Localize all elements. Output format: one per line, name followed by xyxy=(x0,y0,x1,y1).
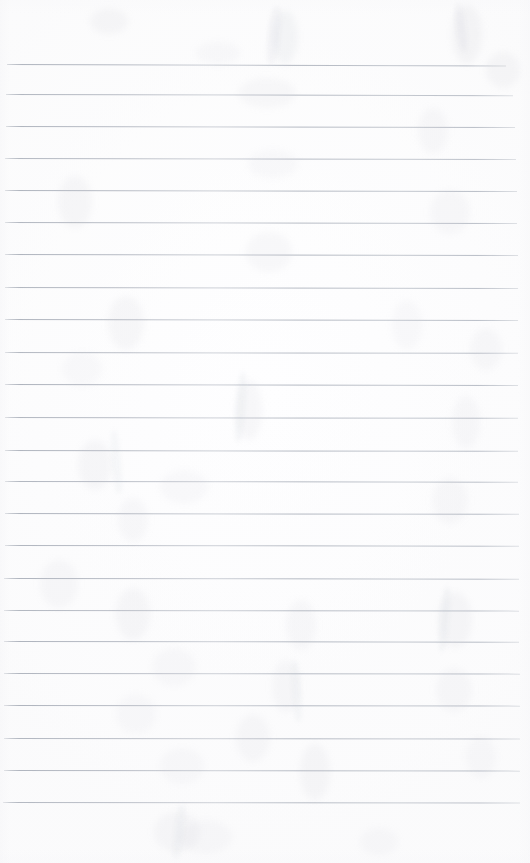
scan-smudge xyxy=(452,396,480,448)
scan-smudge xyxy=(58,176,92,228)
rule-line xyxy=(7,64,506,66)
scan-smudge xyxy=(452,4,482,64)
scan-streak xyxy=(171,804,188,861)
scan-smudge xyxy=(180,820,232,854)
scan-smudge xyxy=(486,52,520,88)
scan-smudge xyxy=(196,42,240,64)
rule-line xyxy=(3,802,520,804)
rule-line xyxy=(5,222,517,224)
scan-streak xyxy=(453,2,470,53)
rule-line xyxy=(5,190,517,192)
rule-line xyxy=(5,352,518,354)
scan-smudge xyxy=(272,10,298,64)
rule-line xyxy=(5,158,516,160)
scan-smudge xyxy=(40,560,78,608)
rule-line xyxy=(4,738,520,740)
scan-artifacts-layer xyxy=(0,0,530,863)
scan-smudge xyxy=(246,232,292,272)
scan-smudge xyxy=(286,600,316,650)
scan-smudge xyxy=(432,478,468,524)
rule-line xyxy=(5,481,518,483)
scan-smudge xyxy=(152,648,196,686)
scan-smudge xyxy=(116,694,156,734)
rule-line xyxy=(4,673,520,675)
scan-smudge xyxy=(108,296,144,350)
rule-line xyxy=(5,319,518,321)
scan-smudge xyxy=(118,498,148,542)
scan-smudge xyxy=(466,736,496,778)
rule-line xyxy=(5,417,518,419)
scan-smudge xyxy=(236,380,262,440)
scan-smudge xyxy=(392,300,422,350)
rule-line xyxy=(4,770,520,772)
scan-smudge xyxy=(78,440,112,490)
rule-line xyxy=(4,705,520,707)
scan-smudge xyxy=(160,748,204,784)
rule-line xyxy=(5,287,518,289)
scan-smudge xyxy=(236,714,270,762)
scan-smudge xyxy=(430,190,470,234)
scan-smudge xyxy=(62,352,102,386)
scan-smudge xyxy=(418,108,448,154)
scan-edge-vignette xyxy=(0,0,530,863)
paper-texture xyxy=(0,0,530,863)
scan-smudge xyxy=(470,328,502,370)
scan-smudge xyxy=(90,8,128,34)
rule-line xyxy=(5,254,518,256)
rule-line xyxy=(5,450,518,452)
scan-smudge xyxy=(116,588,150,640)
scan-streak xyxy=(290,660,303,722)
scan-smudge xyxy=(238,78,296,108)
scan-smudge xyxy=(438,592,472,648)
rule-line xyxy=(4,641,519,643)
scan-streak xyxy=(265,6,283,65)
scan-smudge xyxy=(160,470,208,504)
rule-line xyxy=(5,545,519,547)
rule-line xyxy=(4,610,519,612)
scan-smudge xyxy=(272,660,300,712)
scan-smudge xyxy=(300,744,330,800)
scan-smudge xyxy=(248,150,298,178)
scan-streak xyxy=(437,586,452,653)
scan-streak xyxy=(234,372,248,442)
scan-smudge xyxy=(154,812,200,852)
scan-streak xyxy=(109,430,124,495)
scanned-page xyxy=(0,0,530,863)
rule-line xyxy=(5,384,518,386)
rule-line xyxy=(4,578,519,580)
ruled-lines-layer xyxy=(0,0,530,863)
scan-smudge xyxy=(360,828,398,856)
rule-line xyxy=(6,94,513,96)
rule-line xyxy=(6,126,515,128)
scan-smudge xyxy=(436,668,472,712)
rule-line xyxy=(5,513,519,515)
